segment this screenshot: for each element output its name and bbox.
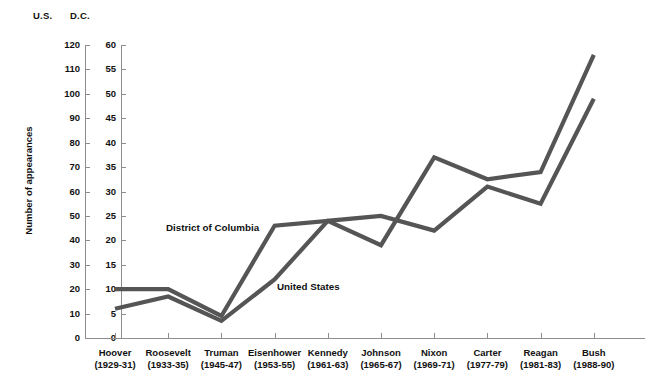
series-line-united-states — [115, 99, 594, 321]
series-line-district-of-columbia — [115, 55, 594, 316]
series-label-district-of-columbia: District of Columbia — [166, 222, 259, 233]
line-chart: U.S. D.C. Number of appearances 01020304… — [0, 0, 651, 386]
plot-area — [0, 0, 651, 386]
series-label-united-states: United States — [277, 281, 340, 292]
